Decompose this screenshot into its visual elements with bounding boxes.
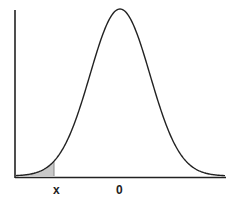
density-curve: [16, 9, 225, 176]
shaded-tail-area: [16, 161, 54, 176]
x-marker-label: x: [53, 183, 60, 197]
normal-curve-chart: x 0: [0, 0, 236, 205]
zero-marker-label: 0: [116, 183, 123, 197]
